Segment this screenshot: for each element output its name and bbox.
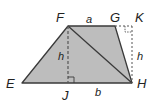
label-point-k: K xyxy=(135,10,145,25)
label-height-left-h: h xyxy=(58,50,64,62)
label-bottom-b: b xyxy=(95,86,101,98)
label-height-right-h: h xyxy=(137,50,143,62)
label-point-g: G xyxy=(110,10,120,25)
label-top-base-a: a xyxy=(86,13,92,25)
trapezoid-diagram: F G K E J H a b h h xyxy=(0,0,152,104)
right-angle-marker-k xyxy=(125,26,132,32)
label-point-j: J xyxy=(61,88,69,103)
label-point-e: E xyxy=(6,76,15,91)
label-point-f: F xyxy=(56,10,65,25)
label-point-h: H xyxy=(137,76,147,91)
